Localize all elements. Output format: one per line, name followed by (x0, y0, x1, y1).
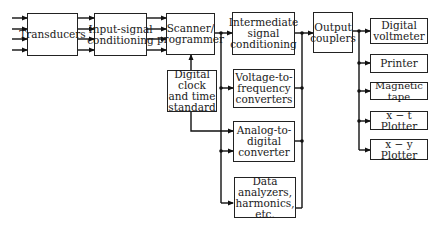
analog-to-digital-label: Analog-to- digital converter (235, 125, 293, 158)
scanner-programmer-label: Scanner/ programmer (157, 23, 224, 45)
digital-clock-block: Digital clock and time standard (167, 70, 217, 112)
printer-label: Printer (380, 58, 418, 69)
scanner-programmer-block: Scanner/ programmer (166, 13, 215, 55)
digital-voltmeter-block: Digital voltmeter (370, 18, 428, 44)
intermediate-signal-conditioning-block: Intermediate signal conditioning (232, 12, 295, 55)
transducers-label: Transducers (19, 29, 85, 40)
data-analyzers-block: Data analyzers, harmonics, etc. (234, 177, 296, 218)
input-signal-conditioning-block: Input-signal conditioning (94, 13, 147, 56)
magnetic-tape-label: Magnetic tape (372, 80, 426, 102)
output-couplers-block: Output couplers (313, 12, 353, 53)
transducers-block: Transducers (27, 13, 78, 56)
printer-block: Printer (370, 54, 428, 73)
input-signal-conditioning-label: Input-signal conditioning (87, 24, 154, 46)
magnetic-tape-block: Magnetic tape (370, 82, 428, 100)
voltage-to-frequency-label: Voltage-to- frequency converters (235, 72, 293, 105)
voltage-to-frequency-block: Voltage-to- frequency converters (233, 69, 295, 108)
intermediate-signal-conditioning-label: Intermediate signal conditioning (229, 17, 298, 50)
digital-voltmeter-label: Digital voltmeter (372, 20, 426, 42)
xt-plotter-label: x − t Plotter (372, 110, 426, 132)
xt-plotter-block: x − t Plotter (370, 111, 428, 130)
digital-clock-label: Digital clock and time standard (168, 69, 215, 113)
xy-plotter-label: x − y Plotter (372, 139, 426, 161)
xy-plotter-block: x − y Plotter (370, 139, 428, 160)
data-analyzers-label: Data analyzers, harmonics, etc. (235, 176, 294, 220)
analog-to-digital-block: Analog-to- digital converter (233, 121, 295, 162)
output-couplers-label: Output couplers (310, 22, 356, 44)
